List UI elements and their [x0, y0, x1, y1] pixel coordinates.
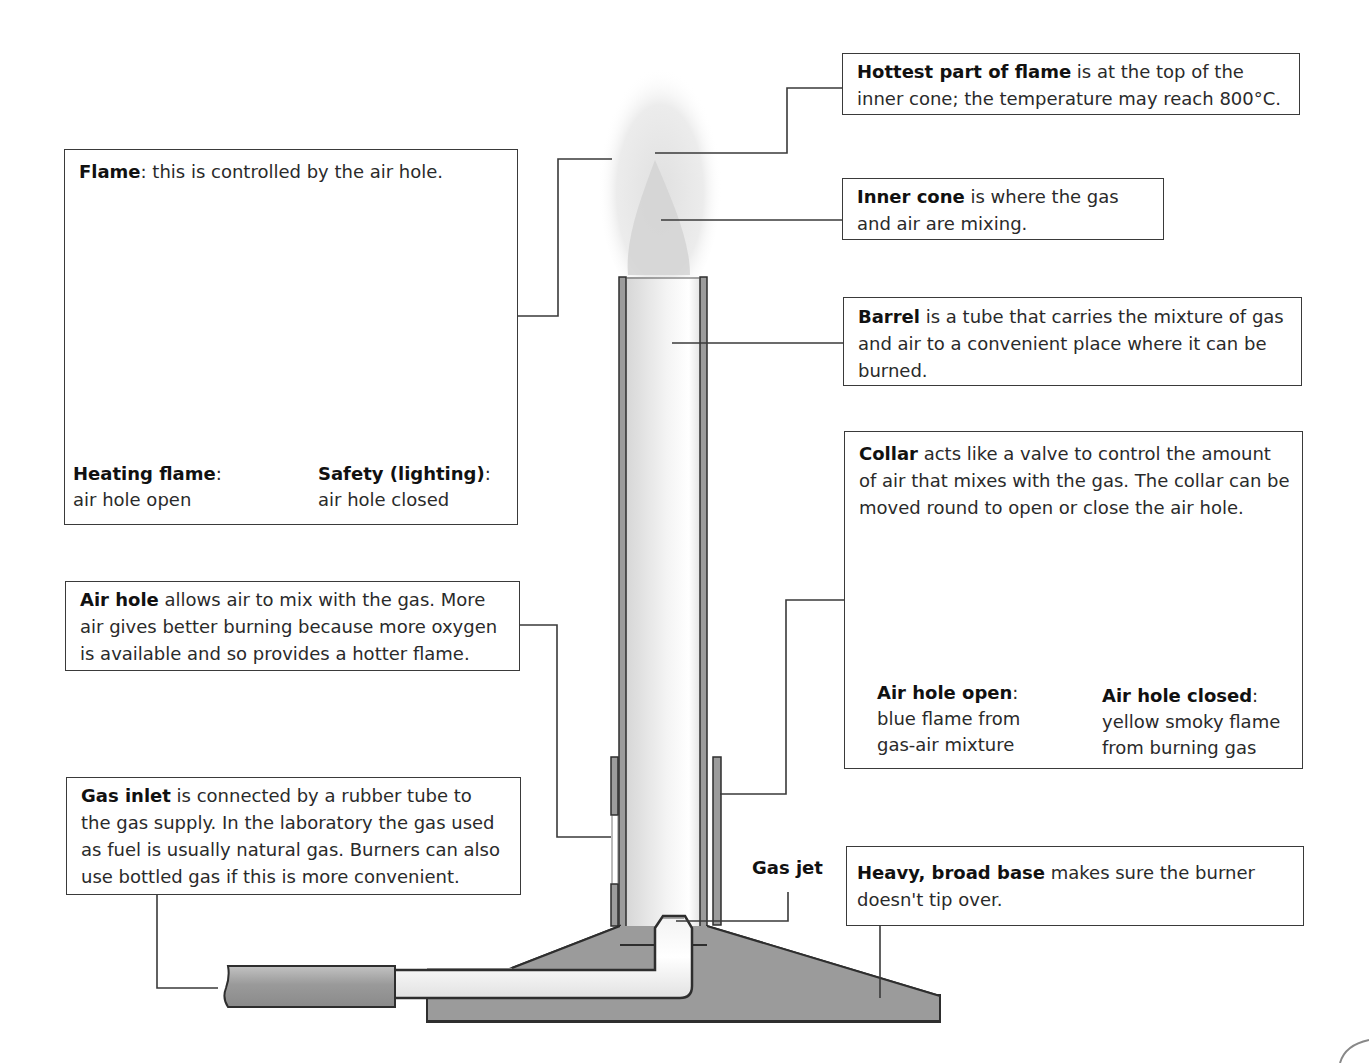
collar-left-lower	[611, 884, 618, 926]
hottest-term: Hottest part of flame	[857, 61, 1071, 82]
page-corner-arc	[1340, 1040, 1369, 1063]
flame-text: : this is controlled by the air hole.	[141, 161, 444, 182]
collar-right	[713, 757, 721, 925]
air-hole-closed-desc1: yellow smoky flame	[1102, 711, 1280, 732]
air-hole-closed-caption: Air hole closed: yellow smoky flame from…	[1102, 683, 1280, 761]
safety-flame-caption: Safety (lighting): air hole closed	[318, 461, 491, 513]
barrel-label-box: Barrel is a tube that carries the mixtur…	[843, 297, 1302, 386]
rubber-tube	[224, 966, 395, 1007]
gas-jet-term: Gas jet	[752, 857, 823, 878]
base-label-box: Heavy, broad base makes sure the burner …	[846, 846, 1304, 926]
gas-jet-label: Gas jet	[752, 855, 823, 881]
collar-term: Collar	[859, 443, 918, 464]
gas-inlet-term: Gas inlet	[81, 785, 171, 806]
flame-term: Flame	[79, 161, 141, 182]
barrel-term: Barrel	[858, 306, 920, 327]
collar-left-upper	[611, 757, 618, 815]
air-hole-label-box: Air hole allows air to mix with the gas.…	[65, 581, 520, 671]
air-hole-open-term: Air hole open	[877, 682, 1012, 703]
heating-flame-caption: Heating flame: air hole open	[73, 461, 222, 513]
air-hole-closed-desc2: from burning gas	[1102, 737, 1256, 758]
inner-cone-term: Inner cone	[857, 186, 965, 207]
barrel-text: is a tube that carries the mixture of ga…	[858, 306, 1284, 381]
heating-flame-term: Heating flame	[73, 463, 216, 484]
safety-flame-term: Safety (lighting)	[318, 463, 485, 484]
barrel	[620, 277, 706, 945]
hottest-part-label-box: Hottest part of flame is at the top of t…	[842, 53, 1300, 115]
air-hole-closed-term: Air hole closed	[1102, 685, 1252, 706]
air-hole-term: Air hole	[80, 589, 159, 610]
collar-text: acts like a valve to control the amount …	[859, 443, 1290, 518]
heating-flame-desc: air hole open	[73, 489, 191, 510]
gas-inlet-label-box: Gas inlet is connected by a rubber tube …	[66, 777, 521, 895]
inner-cone-label-box: Inner cone is where the gas and air are …	[842, 178, 1164, 240]
base-term: Heavy, broad base	[857, 862, 1045, 883]
air-hole-open-caption: Air hole open: blue flame from gas-air m…	[877, 680, 1020, 758]
safety-flame-desc: air hole closed	[318, 489, 449, 510]
air-hole-open-desc2: gas-air mixture	[877, 734, 1014, 755]
air-hole-open-desc1: blue flame from	[877, 708, 1020, 729]
